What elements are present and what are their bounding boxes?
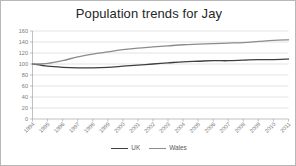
- chart-legend: UKWales: [1, 145, 296, 151]
- legend-line-swatch: [111, 148, 128, 149]
- y-axis-tick-label: 160: [19, 28, 28, 34]
- y-axis-tick-label: 140: [19, 39, 28, 45]
- x-axis-tick-label: 2009: [248, 121, 261, 134]
- legend-label: UK: [131, 145, 140, 151]
- chart-window: Population trends for Jay 02040608010012…: [0, 0, 296, 166]
- y-axis-tick-label: 40: [22, 94, 28, 100]
- x-axis-tick-label: 2006: [203, 121, 216, 134]
- y-axis-tick-labels: 020406080100120140160: [19, 28, 28, 122]
- legend-entry-wales[interactable]: Wales: [149, 145, 187, 151]
- line-chart-plot: 020406080100120140160 199419951996199719…: [1, 1, 296, 166]
- legend-label: Wales: [169, 145, 187, 151]
- y-axis-tick-label: 20: [22, 105, 28, 111]
- y-axis-tick-label: 60: [22, 83, 28, 89]
- y-axis-tick-label: 0: [25, 116, 28, 122]
- x-axis-tick-label: 2000: [113, 121, 126, 134]
- x-axis-tick-label: 1994: [23, 121, 36, 134]
- y-axis-tick-label: 100: [19, 61, 28, 67]
- legend-line-swatch: [149, 148, 166, 149]
- x-axis-tick-label: 2008: [233, 121, 246, 134]
- x-axis-tick-label: 1995: [38, 121, 51, 134]
- x-axis-tick-labels: 1994199519961997199819992000200120022003…: [23, 121, 292, 134]
- x-axis-tick-label: 2011: [279, 121, 292, 134]
- x-axis-tick-label: 1999: [98, 121, 111, 134]
- x-axis-tick-label: 2004: [173, 121, 186, 134]
- x-axis-tick-label: 1997: [68, 121, 81, 134]
- x-axis-tick-label: 2002: [143, 121, 156, 134]
- x-axis-tick-label: 1998: [83, 121, 96, 134]
- y-axis-tick-label: 80: [22, 72, 28, 78]
- y-axis-tick-label: 120: [19, 50, 28, 56]
- x-axis-tick-label: 2001: [128, 121, 141, 134]
- legend-entry-uk[interactable]: UK: [111, 145, 140, 151]
- x-axis-tick-label: 2007: [218, 121, 231, 134]
- x-axis-tick-label: 1996: [53, 121, 66, 134]
- series-line-uk: [33, 59, 289, 68]
- x-axis-tick-label: 2005: [188, 121, 201, 134]
- x-axis-tick-label: 2010: [263, 121, 276, 134]
- data-series-group: [33, 40, 289, 68]
- x-axis-tick-label: 2003: [158, 121, 171, 134]
